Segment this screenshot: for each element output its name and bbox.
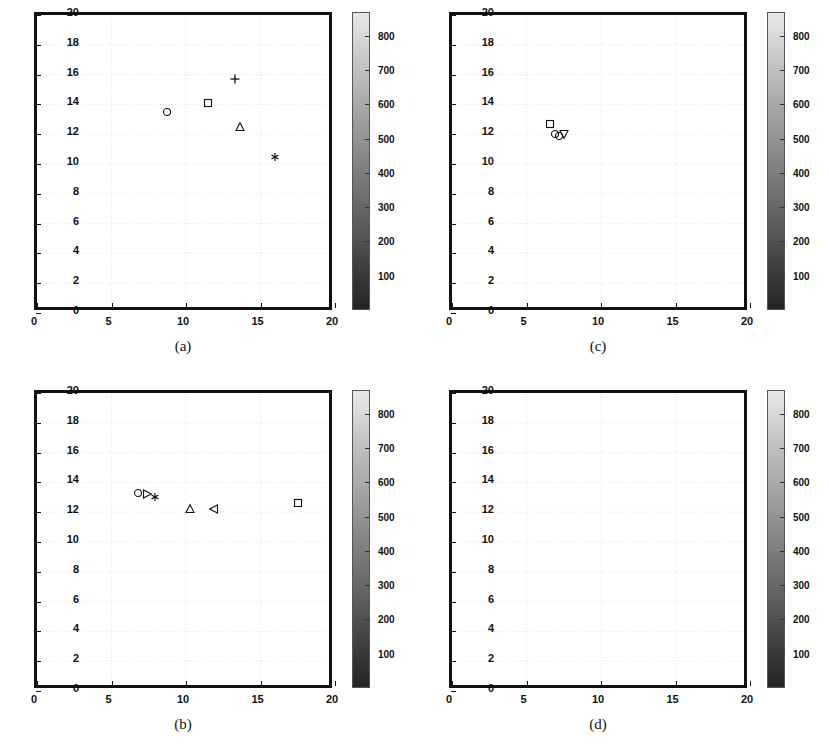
colorbar-tick-label-500: 500: [378, 511, 395, 522]
x-tick-label-20: 20: [741, 693, 753, 705]
colorbar-a: 100200300400500600700800: [352, 12, 412, 310]
y-tick-label-20: 20: [466, 6, 494, 18]
x-tick-5: [527, 681, 528, 686]
colorbar-tick-100: [780, 276, 785, 277]
x-tick-0: [37, 303, 38, 308]
colorbar-tick-200: [365, 619, 370, 620]
x-tick-label-10: 10: [592, 315, 604, 327]
colorbar-tick-label-400: 400: [793, 545, 810, 556]
y-tick-label-0: 0: [51, 304, 79, 316]
y-tick-label-18: 18: [51, 36, 79, 48]
x-tick-20: [750, 303, 751, 308]
marker-triangle-down[interactable]: [557, 128, 570, 141]
panel-c: 0246810121416182005101520100200300400500…: [415, 0, 830, 378]
x-tick-10: [601, 303, 602, 308]
colorbar-tick-800: [780, 36, 785, 37]
y-tick-4: [36, 631, 41, 632]
colorbar-tick-400: [365, 173, 370, 174]
marker-asterisk[interactable]: [148, 491, 161, 504]
x-tick-10: [186, 303, 187, 308]
x-tick-label-0: 0: [31, 693, 37, 705]
colorbar-tick-700: [365, 448, 370, 449]
y-tick-label-10: 10: [466, 155, 494, 167]
colorbar-gradient-b[interactable]: [352, 390, 370, 688]
colorbar-tick-label-700: 700: [378, 443, 395, 454]
colorbar-tick-label-600: 600: [793, 477, 810, 488]
y-tick-10: [451, 542, 456, 543]
y-tick-label-4: 4: [51, 244, 79, 256]
y-tick-12: [36, 134, 41, 135]
gridlines: [37, 393, 329, 685]
y-tick-label-6: 6: [51, 215, 79, 227]
colorbar-tick-label-100: 100: [378, 648, 395, 659]
y-tick-label-16: 16: [466, 66, 494, 78]
x-tick-15: [676, 681, 677, 686]
y-tick-16: [451, 453, 456, 454]
panel-d: 0246810121416182005101520100200300400500…: [415, 378, 830, 756]
colorbar-tick-label-300: 300: [793, 580, 810, 591]
y-tick-label-0: 0: [466, 682, 494, 694]
colorbar-tick-300: [365, 585, 370, 586]
y-tick-label-6: 6: [466, 593, 494, 605]
colorbar-tick-label-300: 300: [378, 202, 395, 213]
gridlines: [37, 15, 329, 307]
colorbar-tick-800: [365, 414, 370, 415]
y-tick-label-10: 10: [51, 533, 79, 545]
y-tick-label-4: 4: [51, 622, 79, 634]
marker-triangle-up[interactable]: [184, 503, 197, 516]
y-tick-label-0: 0: [466, 304, 494, 316]
colorbar-tick-100: [780, 654, 785, 655]
colorbar-tick-label-200: 200: [793, 236, 810, 247]
marker-asterisk[interactable]: [269, 150, 282, 163]
y-tick-4: [451, 253, 456, 254]
x-tick-5: [112, 681, 113, 686]
colorbar-tick-label-200: 200: [378, 236, 395, 247]
y-tick-label-2: 2: [51, 652, 79, 664]
colorbar-tick-label-800: 800: [378, 30, 395, 41]
x-tick-label-10: 10: [177, 693, 189, 705]
colorbar-tick-label-400: 400: [793, 167, 810, 178]
colorbar-gradient-c[interactable]: [767, 12, 785, 310]
colorbar-tick-label-200: 200: [378, 614, 395, 625]
marker-triangle-left[interactable]: [208, 503, 221, 516]
marker-edge-point[interactable]: [329, 34, 330, 47]
colorbar-tick-label-500: 500: [793, 511, 810, 522]
y-tick-2: [36, 283, 41, 284]
x-tick-20: [750, 681, 751, 686]
colorbar-tick-label-700: 700: [378, 65, 395, 76]
y-tick-16: [36, 75, 41, 76]
x-tick-label-0: 0: [31, 315, 37, 327]
marker-triangle-up[interactable]: [233, 120, 246, 133]
colorbar-tick-label-600: 600: [793, 99, 810, 110]
y-tick-label-14: 14: [51, 473, 79, 485]
colorbar-gradient-a[interactable]: [352, 12, 370, 310]
colorbar-tick-label-500: 500: [793, 133, 810, 144]
colorbar-gradient-d[interactable]: [767, 390, 785, 688]
y-tick-20: [36, 393, 41, 394]
colorbar-tick-100: [365, 654, 370, 655]
colorbar-tick-600: [780, 482, 785, 483]
colorbar-tick-300: [780, 207, 785, 208]
panel-caption-d: (d): [415, 716, 781, 733]
marker-circle[interactable]: [160, 105, 173, 118]
colorbar-tick-300: [365, 207, 370, 208]
x-tick-0: [452, 681, 453, 686]
y-tick-12: [451, 134, 456, 135]
y-tick-label-14: 14: [466, 95, 494, 107]
y-tick-0: [36, 691, 41, 692]
plot-area-b: [37, 393, 329, 685]
plot-area-a: [37, 15, 329, 307]
y-tick-label-10: 10: [466, 533, 494, 545]
colorbar-tick-label-800: 800: [793, 30, 810, 41]
marker-square[interactable]: [291, 497, 304, 510]
y-tick-label-16: 16: [466, 444, 494, 456]
y-tick-label-2: 2: [466, 274, 494, 286]
x-tick-label-15: 15: [251, 315, 263, 327]
y-tick-10: [36, 164, 41, 165]
y-tick-label-4: 4: [466, 622, 494, 634]
colorbar-tick-500: [780, 517, 785, 518]
y-tick-8: [36, 572, 41, 573]
marker-square[interactable]: [202, 96, 215, 109]
y-tick-6: [451, 224, 456, 225]
marker-plus[interactable]: [229, 73, 242, 86]
